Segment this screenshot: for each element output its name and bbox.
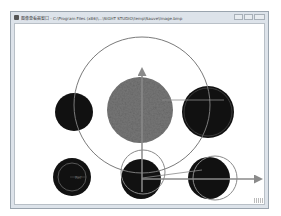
window-controls — [234, 14, 265, 20]
dark-circle-bottom-right — [188, 157, 230, 199]
image-canvas[interactable]: Ref — [14, 23, 265, 205]
dark-circle-top-right — [182, 86, 234, 138]
window-title: 图像查看器窗口 - C:\Program Files (x86)\...\SIG… — [21, 15, 221, 21]
title-bar[interactable]: 图像查看器窗口 - C:\Program Files (x86)\...\SIG… — [11, 12, 268, 23]
textured-center-circle — [107, 77, 173, 143]
minimize-button[interactable] — [234, 14, 243, 20]
resize-grip[interactable] — [254, 198, 263, 203]
maximize-button[interactable] — [244, 14, 253, 20]
image-viewer-window: 图像查看器窗口 - C:\Program Files (x86)\...\SIG… — [10, 11, 269, 209]
image-display: Ref — [15, 24, 265, 205]
close-button[interactable] — [254, 14, 265, 20]
app-icon — [14, 15, 19, 20]
inner-label: Ref — [75, 175, 82, 180]
